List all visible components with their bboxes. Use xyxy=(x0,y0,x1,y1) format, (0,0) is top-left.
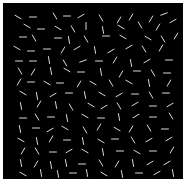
line-segment xyxy=(114,127,120,131)
line-segment xyxy=(169,113,173,119)
line-texture-stimulus xyxy=(3,3,183,179)
line-segment xyxy=(47,128,53,132)
line-segment xyxy=(134,150,140,154)
line-segment xyxy=(132,160,133,167)
line-segment xyxy=(65,160,66,167)
line-segment xyxy=(101,105,107,109)
line-segment xyxy=(36,138,37,145)
line-segment xyxy=(48,57,49,64)
line-segment xyxy=(50,68,51,75)
line-segment xyxy=(98,139,104,143)
line-segment xyxy=(161,13,168,15)
line-segment xyxy=(99,92,105,96)
line-segment xyxy=(37,101,41,107)
line-segment xyxy=(99,160,103,166)
line-segment xyxy=(161,36,165,42)
line-segment xyxy=(50,162,51,169)
line-segments-canvas xyxy=(3,3,183,179)
line-segment xyxy=(129,14,133,20)
line-segment xyxy=(126,80,132,84)
line-segment xyxy=(88,103,94,107)
line-segment xyxy=(82,138,83,145)
line-segment xyxy=(80,60,87,62)
line-segment xyxy=(144,59,150,63)
line-segment xyxy=(74,46,80,50)
line-segment xyxy=(61,47,65,53)
line-segment xyxy=(34,161,38,167)
line-segment xyxy=(119,71,123,77)
line-segment xyxy=(121,171,122,178)
line-segment xyxy=(94,47,95,54)
line-segment xyxy=(101,172,107,176)
line-segment xyxy=(118,25,124,29)
line-segment xyxy=(146,138,152,142)
line-segment xyxy=(151,70,155,76)
line-segment xyxy=(82,114,88,118)
line-segment xyxy=(50,93,56,97)
line-segment xyxy=(36,93,37,100)
line-segment xyxy=(78,14,84,18)
line-segment xyxy=(64,68,70,72)
line-segment xyxy=(18,68,22,74)
line-segment xyxy=(170,19,176,23)
line-segment xyxy=(55,102,56,109)
line-segment xyxy=(55,26,61,30)
line-segment xyxy=(17,79,21,85)
line-segment xyxy=(102,27,103,34)
line-segment xyxy=(167,103,173,107)
line-segment xyxy=(18,138,24,142)
line-segment xyxy=(69,104,73,110)
line-segment xyxy=(66,149,72,153)
line-segment xyxy=(99,15,103,21)
line-segment xyxy=(109,80,113,86)
line-segment xyxy=(166,137,172,141)
line-segment xyxy=(20,103,21,110)
line-segment xyxy=(120,35,126,39)
line-segment xyxy=(84,92,85,99)
line-segment xyxy=(86,170,87,177)
line-segment xyxy=(108,49,114,53)
line-segment xyxy=(15,15,21,19)
line-segment xyxy=(24,24,30,28)
line-segment xyxy=(97,124,101,130)
line-segment xyxy=(129,126,133,132)
line-segment xyxy=(164,161,170,165)
line-segment xyxy=(174,33,178,39)
line-segment xyxy=(49,136,53,142)
line-segment xyxy=(83,127,87,133)
line-segment xyxy=(21,148,25,154)
line-segment xyxy=(131,137,135,143)
line-segment xyxy=(117,17,121,23)
line-segment xyxy=(35,148,39,154)
line-segment xyxy=(44,81,50,85)
line-segment xyxy=(116,93,122,97)
line-segment xyxy=(53,13,57,19)
line-segment xyxy=(154,171,160,175)
line-segment xyxy=(172,170,173,177)
line-segment xyxy=(167,80,171,86)
line-segment xyxy=(20,172,26,176)
line-segment xyxy=(57,171,58,178)
line-segment xyxy=(31,69,35,75)
line-segment xyxy=(142,46,146,52)
line-segment xyxy=(170,147,174,153)
line-segment xyxy=(147,125,151,131)
line-segment xyxy=(117,103,121,109)
line-segment xyxy=(145,36,151,40)
line-segment xyxy=(71,26,75,32)
line-segment xyxy=(66,115,67,122)
line-segment xyxy=(62,126,68,130)
line-segment xyxy=(20,160,21,167)
line-segment xyxy=(138,22,142,28)
line-segment xyxy=(133,114,139,118)
line-segment xyxy=(35,114,39,120)
line-segment xyxy=(147,161,153,165)
line-segment xyxy=(130,60,131,67)
line-segment xyxy=(159,45,163,51)
line-segment xyxy=(148,80,149,87)
line-segment xyxy=(90,81,96,85)
line-segment xyxy=(132,102,138,106)
line-segment xyxy=(77,81,81,87)
line-segment xyxy=(149,92,153,98)
line-segment xyxy=(32,35,36,41)
